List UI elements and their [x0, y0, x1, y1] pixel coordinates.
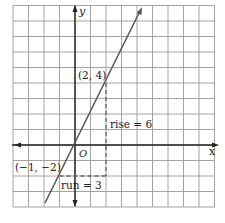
point-a-label: (2, 4) — [78, 69, 106, 81]
rise-label: rise = 6 — [110, 118, 152, 130]
y-axis — [73, 5, 78, 207]
x-axis-left-arrow-icon — [14, 143, 21, 148]
point-b-label: (−1, −2) — [15, 161, 61, 173]
origin-label: O — [79, 148, 87, 159]
grid-lines — [13, 6, 215, 208]
y-axis-label: y — [78, 5, 86, 18]
y-axis-down-arrow-icon — [73, 200, 78, 207]
run-label: run = 3 — [61, 179, 102, 191]
x-axis-label: x — [209, 145, 216, 158]
x-axis — [12, 143, 219, 148]
y-axis-up-arrow-icon — [73, 5, 78, 12]
coordinate-plane: y x O (2, 4) (−1, −2) rise = 6 run = 3 — [0, 0, 225, 223]
